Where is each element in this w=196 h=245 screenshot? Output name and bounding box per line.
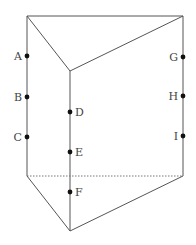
point-a-label: A: [13, 50, 23, 63]
point-i-dot: [181, 134, 186, 139]
point-h-dot: [181, 94, 186, 99]
point-f-dot: [68, 190, 73, 195]
labeled-points: ABCDEFGHI: [13, 50, 185, 199]
point-e-dot: [68, 150, 73, 155]
point-b-label: B: [14, 91, 22, 104]
point-d-label: D: [75, 106, 84, 119]
point-h-label: H: [168, 90, 178, 103]
point-d-dot: [68, 110, 73, 115]
point-i-label: I: [174, 130, 178, 143]
point-a-dot: [25, 54, 30, 59]
top-right-edge: [70, 16, 183, 71]
top-left-edge: [27, 16, 70, 71]
point-f-label: F: [75, 186, 83, 199]
prism-diagram: ABCDEFGHI: [0, 0, 196, 245]
point-g-dot: [181, 55, 186, 60]
point-c-label: C: [14, 131, 22, 144]
point-b-dot: [25, 95, 30, 100]
bottom-left-edge: [27, 176, 70, 231]
point-e-label: E: [75, 146, 83, 159]
point-g-label: G: [169, 51, 178, 64]
bottom-right-edge: [70, 176, 183, 231]
point-c-dot: [25, 135, 30, 140]
